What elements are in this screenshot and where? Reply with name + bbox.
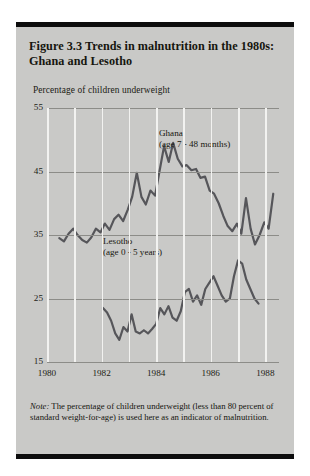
x-tick-1980: 1980: [38, 368, 56, 378]
series-line-lesotho: [103, 260, 259, 339]
gridline-h-15: [47, 362, 279, 363]
plot-area: Ghana (age 7 - 48 months) Lesotho (age 0…: [47, 108, 279, 362]
y-tick-25: 25: [34, 293, 43, 303]
gridline-v-1985: [183, 108, 185, 362]
gridline-v-1988: [265, 108, 267, 362]
bottom-rule: [16, 454, 294, 459]
annotation-lesotho: Lesotho (age 0 - 5 years): [103, 236, 162, 258]
x-tick-1988: 1988: [256, 368, 274, 378]
annotation-lesotho-name: Lesotho: [103, 236, 162, 247]
figure-title: Figure 3.3 Trends in malnutrition in the…: [29, 39, 281, 68]
figure-note-text: The percentage of children underweight (…: [30, 401, 274, 422]
y-tick-45: 45: [34, 166, 43, 176]
figure-note-label: Note:: [30, 401, 49, 411]
series-line-ghana: [59, 143, 273, 245]
figure-panel: Figure 3.3 Trends in malnutrition in the…: [16, 22, 294, 459]
y-tick-55: 55: [34, 102, 43, 112]
gridline-v-1987: [238, 108, 240, 362]
gridline-h-25: [47, 299, 279, 300]
top-rule: [16, 22, 294, 27]
gridline-v-1986: [211, 108, 213, 362]
gridline-h-35: [47, 235, 279, 236]
y-axis-title: Percentage of children underweight: [33, 85, 170, 95]
x-tick-1982: 1982: [92, 368, 110, 378]
annotation-ghana-detail: (age 7 - 48 months): [159, 139, 230, 150]
x-tick-1984: 1984: [147, 368, 165, 378]
gridline-h-45: [47, 172, 279, 173]
gridline-v-1982: [102, 108, 104, 362]
annotation-lesotho-detail: (age 0 - 5 years): [103, 247, 162, 258]
x-tick-1986: 1986: [202, 368, 220, 378]
y-tick-35: 35: [34, 229, 43, 239]
gridline-v-1983: [129, 108, 131, 362]
figure-note: Note: The percentage of children underwe…: [30, 401, 280, 422]
gridline-v-1981: [74, 108, 76, 362]
gridline-v-1984: [156, 108, 158, 362]
gridline-h-55: [47, 108, 279, 109]
annotation-ghana-name: Ghana: [159, 128, 230, 139]
gridline-v-1980: [47, 108, 49, 362]
annotation-ghana: Ghana (age 7 - 48 months): [159, 128, 230, 150]
y-tick-15: 15: [34, 356, 43, 366]
